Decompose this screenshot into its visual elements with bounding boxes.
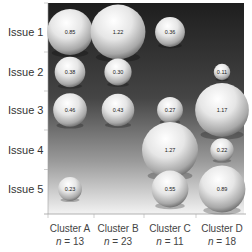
x-sample-size-label: n = 23 — [104, 236, 133, 247]
bubble-value-label: 0.30 — [113, 69, 124, 75]
y-tick-label: Issue 5 — [8, 183, 43, 195]
x-sample-size-label: n = 13 — [56, 236, 85, 247]
bubble-value-label: 0.27 — [165, 107, 176, 113]
bubble-value-label: 0.11 — [217, 69, 227, 75]
y-tick-label: Issue 3 — [8, 104, 43, 116]
y-tick-labels: Issue 1Issue 2Issue 3Issue 4Issue 5 — [8, 3, 48, 195]
x-tick-label: Cluster B — [97, 223, 138, 234]
bubble-value-label: 0.89 — [217, 186, 228, 192]
bubble-value-label: 0.22 — [217, 147, 228, 153]
bubble-value-label: 0.43 — [113, 107, 124, 113]
bubble-chart: Issue 1Issue 2Issue 3Issue 4Issue 5 Clus… — [0, 0, 252, 252]
bubble-value-label: 0.46 — [65, 107, 76, 113]
bubble-value-label: 1.17 — [217, 107, 228, 113]
x-sample-size-label: n = 18 — [208, 236, 237, 247]
bubble-value-label: 0.23 — [65, 186, 76, 192]
y-tick-label: Issue 4 — [8, 144, 43, 156]
x-sample-size-label: n = 11 — [156, 236, 184, 247]
bubble-value-label: 1.27 — [165, 147, 176, 153]
y-tick-label: Issue 2 — [8, 66, 43, 78]
x-tick-label: Cluster A — [50, 223, 91, 234]
bubble-value-label: 0.55 — [165, 186, 176, 192]
x-tick-label: Cluster C — [149, 223, 191, 234]
x-tick-labels: Cluster An = 13Cluster Bn = 23Cluster Cn… — [48, 214, 243, 247]
x-tick-label: Cluster D — [201, 223, 243, 234]
y-tick-label: Issue 1 — [8, 26, 43, 38]
bubble-value-label: 0.85 — [65, 29, 76, 35]
bubble-value-label: 1.22 — [113, 29, 124, 35]
bubble-value-label: 0.38 — [65, 69, 76, 75]
bubble-value-label: 0.36 — [165, 29, 176, 35]
